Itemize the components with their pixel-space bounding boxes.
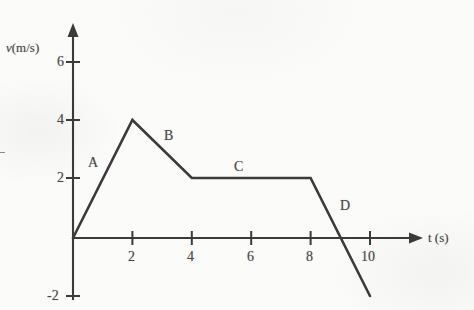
velocity-curve [73,120,370,296]
x-tick-label-8: 8 [306,250,313,264]
segment-label-c: C [234,160,243,174]
figure-canvas: v(m/s) t (s) 6 4 2 -2 2 4 6 8 10 A B C D [0,0,474,310]
y-tick-label-neg2: -2 [47,289,59,303]
y-tick-label-6: 6 [57,55,64,69]
y-tick-label-2: 2 [57,171,64,185]
x-tick-label-2: 2 [128,250,135,264]
segment-label-b: B [164,129,173,143]
y-tick-label-4: 4 [57,113,64,127]
velocity-time-plot [0,0,474,310]
x-tick-label-4: 4 [187,250,194,264]
x-tick-label-6: 6 [247,250,254,264]
y-axis-label: v(m/s) [6,41,39,54]
y-axis-arrowhead [68,23,79,37]
segment-label-d: D [340,199,350,213]
x-axis-label: t (s) [428,231,449,244]
x-tick-label-10: 10 [361,250,375,264]
segment-label-a: A [88,156,98,170]
x-axis-arrowhead [409,233,423,244]
y-axis-label-unit: (m/s) [12,40,39,55]
